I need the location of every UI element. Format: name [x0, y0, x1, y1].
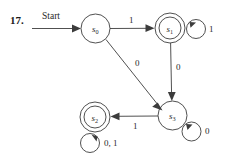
edge-s3-s2-label: 1	[133, 121, 138, 131]
self-loop-s3-label: 0	[205, 126, 210, 136]
state-machine-diagram: 17. Start 1 0 0 1 s0 s1	[0, 0, 236, 163]
state-s3-label: s3	[169, 111, 176, 122]
state-s0-subscript: 0	[96, 28, 99, 35]
state-s2-label: s2	[92, 113, 99, 124]
state-s0[interactable]: s0	[81, 14, 110, 43]
self-loop-s2[interactable]: 0, 1	[81, 134, 118, 153]
start-arrow-head	[72, 25, 81, 33]
self-loop-s2-label: 0, 1	[104, 138, 118, 148]
state-s2-subscript: 2	[95, 117, 98, 124]
edge-s3-s2-arrow	[111, 113, 120, 121]
self-loop-s1-circle	[187, 20, 206, 39]
state-s3[interactable]: s3	[158, 101, 187, 130]
state-s0-label: s0	[92, 24, 99, 35]
self-loop-s1-label: 1	[209, 24, 214, 34]
edge-s0-s1-label: 1	[129, 15, 134, 25]
self-loop-s2-arrow	[92, 135, 98, 142]
self-loop-s1[interactable]: 1	[187, 20, 214, 39]
state-s2[interactable]: s2	[80, 102, 110, 132]
figure-page: 17. Start 1 0 0 1 s0 s1	[0, 0, 236, 163]
start-label: Start	[42, 11, 60, 21]
edge-s1-s3-line	[171, 43, 172, 96]
edge-s0-s3-label: 0	[135, 58, 140, 68]
state-s3-subscript: 3	[173, 115, 176, 122]
self-loop-s1-arrow	[190, 22, 197, 28]
exercise-number: 17.	[10, 14, 24, 26]
state-s1[interactable]: s1	[155, 13, 185, 43]
edge-s1-s3-label: 0	[176, 62, 181, 72]
state-s1-label: s1	[167, 24, 174, 35]
edge-s1-s3-arrow	[168, 92, 176, 101]
self-loop-s3-arrow	[186, 124, 193, 130]
self-loop-s3[interactable]: 0	[182, 122, 210, 141]
edge-s0-s3-line	[106, 40, 159, 106]
state-s1-subscript: 1	[170, 28, 173, 35]
edge-s0-s1-arrow	[146, 24, 155, 32]
